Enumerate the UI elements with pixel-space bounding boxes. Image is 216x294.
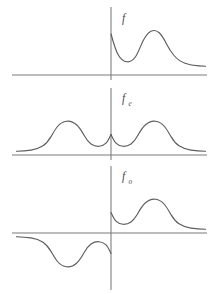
panel-fo-curve-right: [111, 199, 206, 229]
panel-f-curve: [111, 31, 206, 67]
panel-fe-curve-right: [111, 121, 206, 151]
panel-f-label-group: f: [122, 12, 127, 25]
panel-fo: f o: [12, 166, 207, 290]
panel-fe-label-group: f e: [122, 92, 133, 108]
decomposition-figure: f f e f o: [0, 0, 216, 294]
panel-fe-curve-left: [17, 121, 112, 151]
figure-root: f f e f o: [0, 0, 216, 294]
panel-fo-label-group: f o: [122, 170, 133, 186]
panel-fe-label-subscript: e: [129, 100, 133, 108]
panel-f-label: f: [122, 12, 127, 25]
panel-fo-curve-left: [17, 237, 112, 267]
panel-f: f: [12, 7, 207, 80]
panel-fe-label: f: [122, 92, 127, 105]
panel-fo-label-subscript: o: [129, 178, 133, 186]
panel-fo-label: f: [122, 170, 127, 183]
panel-fe: f e: [12, 88, 207, 160]
